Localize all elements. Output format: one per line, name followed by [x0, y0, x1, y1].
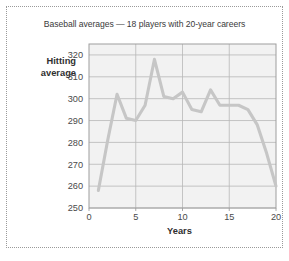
y-tick-label-310: 310: [68, 72, 83, 82]
x-tick-labels: 05101520: [86, 212, 281, 222]
x-tick-label-0: 0: [86, 212, 91, 222]
y-tick-label-300: 300: [68, 94, 83, 104]
y-tick-label-280: 280: [68, 138, 83, 148]
y-tick-labels: 250260270280290300310320: [68, 50, 83, 213]
x-tick-label-10: 10: [177, 212, 187, 222]
y-tick-label-290: 290: [68, 116, 83, 126]
x-tick-label-5: 5: [133, 212, 138, 222]
y-tick-label-250: 250: [68, 203, 83, 213]
line-chart-svg: 250260270280290300310320 05101520: [0, 0, 289, 261]
x-tick-label-15: 15: [224, 212, 234, 222]
y-tick-label-270: 270: [68, 160, 83, 170]
y-tick-label-260: 260: [68, 181, 83, 191]
chart-figure: Baseball averages — 18 players with 20-y…: [0, 0, 289, 261]
y-tick-label-320: 320: [68, 50, 83, 60]
plot-area-wrapper: 250260270280290300310320 05101520: [0, 0, 289, 261]
x-tick-label-20: 20: [271, 212, 281, 222]
